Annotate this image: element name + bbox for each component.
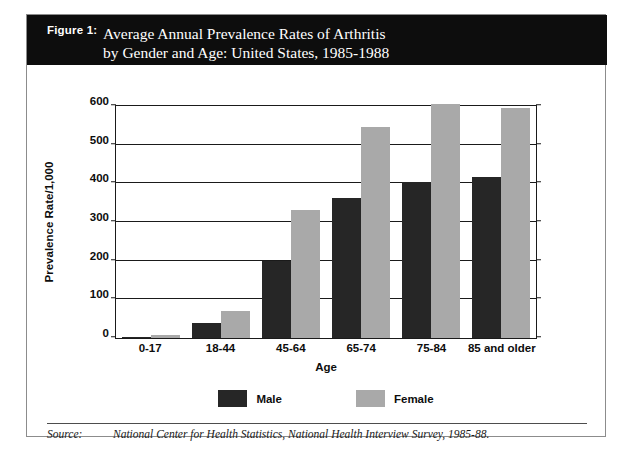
y-axis-title-text: Prevalence Rate/1,000 bbox=[43, 162, 55, 283]
bar-male[interactable] bbox=[122, 337, 151, 338]
plot-area: 0100200300400500600 bbox=[115, 105, 537, 339]
bar-group bbox=[396, 106, 466, 338]
bar-group bbox=[186, 106, 256, 338]
x-axis-tick-label: 0-17 bbox=[115, 342, 185, 354]
y-axis-tick-label: 0 bbox=[103, 327, 109, 339]
x-axis-tick-label: 65-74 bbox=[326, 342, 396, 354]
bar-male[interactable] bbox=[402, 182, 431, 338]
x-axis-tick-label: 75-84 bbox=[396, 342, 466, 354]
bar-female[interactable] bbox=[291, 210, 320, 338]
y-axis-tick-mark-right bbox=[536, 259, 541, 260]
y-axis-tick-label: 100 bbox=[90, 288, 109, 300]
y-axis-tick-mark-right bbox=[536, 220, 541, 221]
bar-male[interactable] bbox=[262, 261, 291, 338]
bar-group bbox=[326, 106, 396, 338]
source-label: Source: bbox=[47, 428, 113, 440]
legend-swatch-male bbox=[218, 390, 247, 407]
y-axis-tick-mark-right bbox=[536, 336, 541, 337]
figure-number-label: Figure 1: bbox=[27, 24, 103, 36]
y-axis-tick-label: 400 bbox=[90, 172, 109, 184]
figure-title-banner: Figure 1: Average Annual Prevalence Rate… bbox=[27, 15, 607, 65]
chart-legend: MaleFemale bbox=[115, 390, 537, 407]
source-divider bbox=[47, 423, 587, 424]
bar-group bbox=[466, 106, 536, 338]
bar-group bbox=[256, 106, 326, 338]
source-note: Source: National Center for Health Stati… bbox=[47, 428, 489, 440]
figure-title: Average Annual Prevalence Rates of Arthr… bbox=[103, 24, 389, 62]
bars-layer bbox=[116, 106, 536, 338]
bar-male[interactable] bbox=[332, 198, 361, 338]
chart-area: Prevalence Rate/1,000 010020030040050060… bbox=[27, 65, 607, 438]
figure-title-line-2: by Gender and Age: United States, 1985-1… bbox=[103, 43, 389, 62]
bar-female[interactable] bbox=[361, 127, 390, 338]
bar-female[interactable] bbox=[151, 335, 180, 338]
source-text: National Center for Health Statistics, N… bbox=[113, 428, 489, 440]
x-axis-tick-label: 18-44 bbox=[185, 342, 255, 354]
figure-title-line-1: Average Annual Prevalence Rates of Arthr… bbox=[103, 24, 389, 43]
legend-swatch-female bbox=[356, 390, 385, 407]
y-axis-tick-label: 500 bbox=[90, 134, 109, 146]
bar-female[interactable] bbox=[501, 108, 530, 338]
y-axis-tick-label: 300 bbox=[90, 211, 109, 223]
x-axis-tick-labels: 0-1718-4445-6465-7475-8485 and older bbox=[115, 342, 537, 354]
y-axis-tick-label: 600 bbox=[90, 95, 109, 107]
bar-female[interactable] bbox=[221, 311, 250, 338]
x-axis-tick-label: 85 and older bbox=[467, 342, 537, 354]
y-axis-tick-mark-right bbox=[536, 298, 541, 299]
legend-item-female[interactable]: Female bbox=[356, 390, 434, 407]
y-axis-tick-mark-right bbox=[536, 182, 541, 183]
x-axis-title: Age bbox=[115, 361, 537, 373]
legend-label-male: Male bbox=[256, 393, 282, 405]
y-axis-tick-label: 200 bbox=[90, 250, 109, 262]
y-axis-tick-mark-right bbox=[536, 143, 541, 144]
bar-male[interactable] bbox=[192, 323, 221, 338]
bar-male[interactable] bbox=[472, 177, 501, 338]
figure-frame: Figure 1: Average Annual Prevalence Rate… bbox=[26, 14, 606, 437]
y-axis-tick-mark-right bbox=[536, 104, 541, 105]
bar-female[interactable] bbox=[431, 104, 460, 338]
bar-group bbox=[116, 106, 186, 338]
legend-label-female: Female bbox=[394, 393, 434, 405]
x-axis-tick-label: 45-64 bbox=[256, 342, 326, 354]
y-axis-title: Prevalence Rate/1,000 bbox=[41, 105, 57, 339]
legend-item-male[interactable]: Male bbox=[218, 390, 282, 407]
